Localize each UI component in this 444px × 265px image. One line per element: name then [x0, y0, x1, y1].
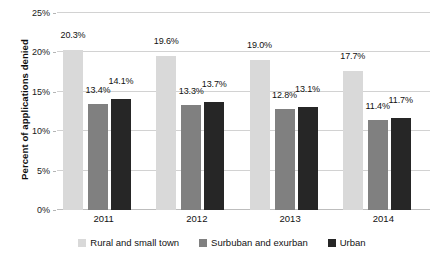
bar-value-label: 14.1%: [108, 76, 133, 86]
legend-item[interactable]: Surbuban and exurban: [199, 237, 308, 248]
x-tick-label: 2014: [337, 213, 430, 224]
y-tick-label: 25%: [0, 8, 50, 18]
bar-value-label: 19.6%: [154, 36, 179, 46]
bar-value-label: 17.7%: [340, 51, 365, 61]
legend-label: Urban: [340, 237, 366, 248]
y-tick-label: 10%: [0, 126, 50, 136]
bar-rect: [275, 109, 295, 210]
bar[interactable]: 19.0%: [250, 60, 270, 210]
x-tick-label: 2013: [244, 213, 337, 224]
bar-value-label: 19.0%: [247, 40, 272, 50]
y-tick-label: 5%: [0, 166, 50, 176]
bar[interactable]: 13.3%: [181, 105, 201, 210]
bar-rect: [204, 102, 224, 210]
y-tick-mark: [53, 92, 56, 93]
y-tick-label: 15%: [0, 87, 50, 97]
bar[interactable]: 11.4%: [368, 120, 388, 210]
bar-rect: [63, 50, 83, 210]
bar-rect: [156, 56, 176, 210]
bar-value-label: 13.3%: [179, 86, 204, 96]
bar-rect: [391, 118, 411, 210]
bar-rect: [111, 99, 131, 210]
bar[interactable]: 11.7%: [391, 118, 411, 210]
bar-chart: Percent of applications denied 0%5%10%15…: [0, 0, 444, 265]
legend-swatch: [328, 239, 336, 247]
bar-rect: [298, 107, 318, 210]
bar-value-label: 13.1%: [295, 84, 320, 94]
y-tick-mark: [53, 13, 56, 14]
bar-value-label: 20.3%: [60, 30, 85, 40]
legend-label: Rural and small town: [90, 237, 179, 248]
legend-swatch: [199, 239, 207, 247]
bar-value-label: 11.4%: [366, 101, 390, 111]
bar-value-label: 13.7%: [202, 79, 227, 89]
bar[interactable]: 13.4%: [88, 104, 108, 210]
plot-area: 20.3%13.4%14.1%19.6%13.3%13.7%19.0%12.8%…: [57, 13, 430, 210]
bar-rect: [181, 105, 201, 210]
bar[interactable]: 19.6%: [156, 56, 176, 210]
bar[interactable]: 17.7%: [343, 71, 363, 210]
bar[interactable]: 12.8%: [275, 109, 295, 210]
legend-item[interactable]: Urban: [328, 237, 366, 248]
bar-value-label: 11.7%: [389, 95, 413, 105]
chart-legend: Rural and small townSurbuban and exurban…: [0, 237, 444, 248]
y-tick-label: 0%: [0, 205, 50, 215]
bar-groups: 20.3%13.4%14.1%19.6%13.3%13.7%19.0%12.8%…: [57, 13, 430, 210]
legend-swatch: [78, 239, 86, 247]
bar[interactable]: 14.1%: [111, 99, 131, 210]
bar[interactable]: 13.7%: [204, 102, 224, 210]
legend-item[interactable]: Rural and small town: [78, 237, 179, 248]
y-tick-mark: [53, 210, 56, 211]
y-tick-mark: [53, 52, 56, 53]
bar-rect: [88, 104, 108, 210]
bar[interactable]: 20.3%: [63, 50, 83, 210]
x-axis-labels: 2011201220132014: [57, 213, 430, 231]
y-tick-label: 20%: [0, 47, 50, 57]
bar-rect: [250, 60, 270, 210]
bar-group: 20.3%13.4%14.1%: [57, 13, 150, 210]
legend-label: Surbuban and exurban: [211, 237, 308, 248]
bar-group: 19.6%13.3%13.7%: [150, 13, 243, 210]
y-tick-mark: [53, 131, 56, 132]
bar-value-label: 12.8%: [272, 90, 297, 100]
bar-rect: [343, 71, 363, 210]
bar-value-label: 13.4%: [85, 85, 110, 95]
y-tick-mark: [53, 171, 56, 172]
x-tick-label: 2012: [150, 213, 243, 224]
x-tick-label: 2011: [57, 213, 150, 224]
bar-group: 19.0%12.8%13.1%: [244, 13, 337, 210]
bar-rect: [368, 120, 388, 210]
bar[interactable]: 13.1%: [298, 107, 318, 210]
bar-group: 17.7%11.4%11.7%: [337, 13, 430, 210]
